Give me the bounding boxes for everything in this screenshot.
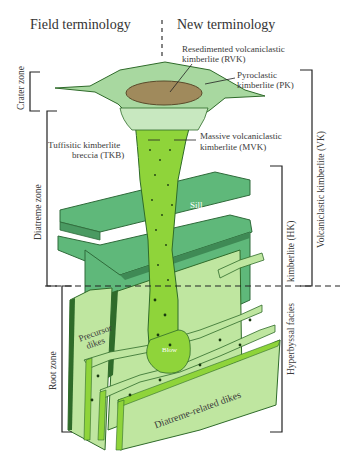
diatreme-zone-bracket (47, 111, 57, 286)
hk-label: kimberlite (HK) (286, 221, 296, 282)
rvk-label-line1: Resedimented volcaniclastic (182, 44, 285, 54)
crater-fill-rvk (126, 81, 202, 105)
mvk-label-line2: kimberlite (MVK) (200, 142, 266, 152)
blow-label: Blow (162, 345, 177, 355)
crater-zone-label: Crater zone (16, 66, 26, 110)
pk-label-line2: kimberlite (PK) (237, 80, 294, 90)
mvk-label-line1: Massive volcaniclastic (200, 131, 282, 141)
tkb-label-line1: Tuffisitic kimberlite (48, 140, 120, 150)
tkb-label-line2: breccia (TKB) (72, 150, 124, 160)
crater-zone-bracket (30, 72, 40, 111)
vk-bracket (300, 70, 312, 286)
hyperbyssal-facies-label: Hyperbyssal facies (286, 303, 296, 375)
sill-label-1: Sill (96, 186, 109, 196)
rvk-label-line2: kimberlite (RVK) (182, 54, 246, 64)
vk-label: Volcaniclastic kimberlite (VK) (316, 131, 326, 248)
field-terminology-title: Field terminology (30, 17, 131, 33)
pk-label-line1: Pyroclastic (237, 70, 277, 80)
diatreme-zone-label: Diatreme zone (33, 184, 43, 240)
root-zone-label: Root zone (48, 351, 58, 390)
new-terminology-title: New terminology (177, 17, 275, 33)
sill-label-2: Sill (190, 200, 203, 210)
